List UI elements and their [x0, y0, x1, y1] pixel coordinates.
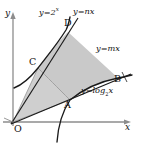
label-exponential-exponent: x — [56, 6, 59, 12]
figure-container: y=2x y=nx y=mx y=log2x D C A B O x y — [0, 0, 142, 146]
y-axis-label: y — [5, 9, 10, 18]
point-label-b: B — [114, 74, 121, 84]
label-log-argument: x — [109, 85, 114, 95]
point-label-c: C — [29, 57, 36, 67]
x-axis-label: x — [125, 123, 130, 132]
point-label-a: A — [64, 100, 71, 110]
origin-label: O — [14, 124, 22, 134]
label-log-prefix: y=log — [81, 85, 105, 95]
point-label-d: D — [64, 18, 72, 28]
label-exponential-curve: y=2x — [39, 7, 59, 16]
label-line-m: y=mx — [96, 44, 120, 52]
y-axis-arrow — [10, 12, 15, 19]
label-line-n: y=nx — [73, 7, 94, 15]
label-exponential-text: y=2 — [39, 7, 56, 17]
label-logarithmic-curve: y=log2x — [81, 86, 113, 97]
